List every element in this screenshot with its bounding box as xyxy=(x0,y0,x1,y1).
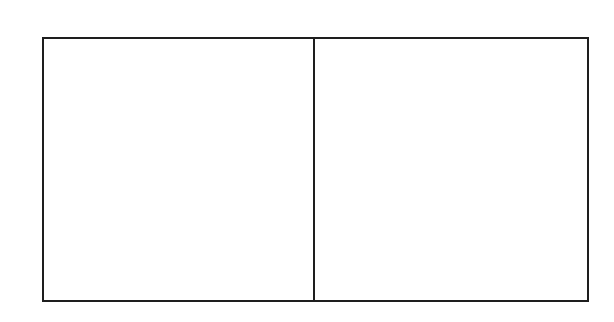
left-panel xyxy=(43,38,314,301)
two-panel-diagram xyxy=(0,0,614,322)
right-panel xyxy=(314,38,588,301)
